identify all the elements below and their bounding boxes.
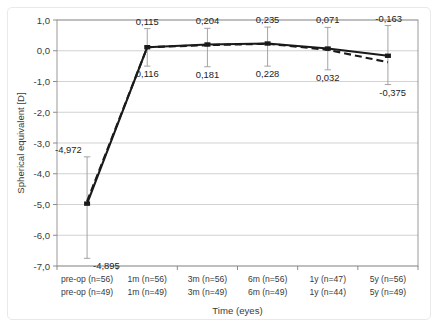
data-point-label: 0,181	[196, 69, 219, 80]
x-tick-label-row2: 1y (n=44)	[309, 287, 346, 297]
data-series-2	[87, 44, 388, 202]
x-tick-label-row2: pre-op (n=49)	[61, 287, 113, 297]
data-point-marker	[265, 41, 271, 45]
data-point-label: 0,204	[196, 15, 219, 26]
y-tick-label: -2,0	[33, 107, 50, 118]
data-point-marker	[84, 201, 90, 205]
y-tick-label: 0,0	[37, 45, 50, 56]
data-point-label: 0,235	[256, 14, 279, 25]
spherical-equivalent-chart: 1,00,0-1,0-2,0-3,0-4,0-5,0-6,0-7,0-4,972…	[0, 0, 440, 334]
data-point-marker	[385, 54, 391, 58]
x-tick-label-row2: 3m (n=49)	[188, 287, 228, 297]
data-point-label: 0,071	[316, 14, 339, 25]
data-point-marker	[325, 46, 331, 50]
y-tick-label: 1,0	[37, 15, 50, 26]
y-axis-title: Spherical equivalent [D]	[15, 92, 26, 193]
data-point-label: 0,116	[136, 68, 159, 79]
y-tick-label: -7,0	[33, 261, 50, 272]
data-point-label: 0,115	[136, 16, 159, 27]
data-point-label: -0,163	[375, 13, 402, 24]
x-tick-label-row1: 1y (n=47)	[309, 274, 346, 284]
data-point-marker	[144, 45, 150, 49]
x-axis-title: Time (eyes)	[212, 305, 262, 316]
y-tick-label: -5,0	[33, 199, 50, 210]
x-tick-label-row1: 3m (n=56)	[188, 274, 228, 284]
x-tick-label-row2: 1m (n=49)	[128, 287, 168, 297]
y-tick-label: -4,0	[33, 168, 50, 179]
data-point-label: -0,375	[379, 87, 406, 98]
data-point-label: -4,972	[55, 144, 82, 155]
y-tick-label: -3,0	[33, 138, 50, 149]
data-point-marker	[204, 42, 210, 46]
data-point-label: 0,032	[316, 72, 339, 83]
y-tick-label: -1,0	[33, 76, 50, 87]
data-point-label: -4,895	[93, 260, 120, 271]
x-tick-label-row2: 5y (n=49)	[370, 287, 407, 297]
data-series-1	[87, 44, 388, 204]
y-tick-label: -6,0	[33, 230, 50, 241]
x-tick-label-row1: 5y (n=56)	[370, 274, 407, 284]
chart-canvas: 1,00,0-1,0-2,0-3,0-4,0-5,0-6,0-7,0-4,972…	[0, 0, 440, 334]
data-point-label: 0,228	[256, 68, 279, 79]
x-tick-label-row2: 6m (n=49)	[248, 287, 288, 297]
x-tick-label-row1: pre-op (n=56)	[61, 274, 113, 284]
x-tick-label-row1: 6m (n=56)	[248, 274, 288, 284]
x-tick-label-row1: 1m (n=56)	[128, 274, 168, 284]
